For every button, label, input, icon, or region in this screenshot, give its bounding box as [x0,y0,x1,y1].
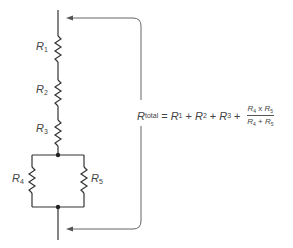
bracket [70,18,141,229]
label-r3: R3 [36,122,48,135]
fraction-numerator: R4 x R5 [247,104,275,116]
top-junction-dot [56,153,60,157]
total-resistance-formula: Rtotal = R1 + R2 + R3 + R4 x R5 R4 + R5 [137,104,274,127]
bottom-junction-dot [56,205,60,209]
parallel-fraction: R4 x R5 R4 + R5 [247,104,275,127]
resistor-r5-symbol [81,167,87,193]
label-r2: R2 [36,83,48,96]
resistor-r4-symbol [29,167,35,193]
resistor-r1-symbol [55,36,61,62]
label-r4: R4 [12,172,24,185]
fraction-denominator: R4 + R5 [247,116,273,127]
label-r1: R1 [36,40,48,53]
arrow-bottom-icon [66,227,73,232]
label-r5: R5 [91,172,103,185]
arrow-top-icon [66,16,73,21]
resistor-r3-symbol [55,120,61,146]
resistor-r2-symbol [55,80,61,106]
